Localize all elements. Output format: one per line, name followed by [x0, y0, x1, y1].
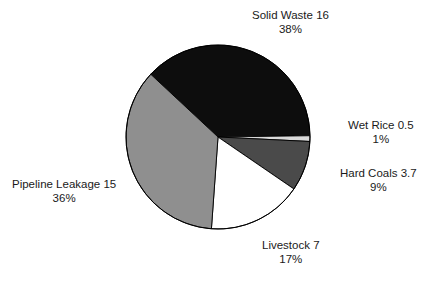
slice-label-pipeline-leakage-percent: 36%	[12, 191, 116, 205]
pie-chart-figure: Solid Waste 16 38% Wet Rice 0.5 1% Hard …	[0, 0, 423, 283]
slice-label-wet-rice-name: Wet Rice 0.5	[348, 118, 414, 132]
slice-label-livestock: Livestock 7 17%	[262, 238, 320, 266]
slice-label-hard-coals: Hard Coals 3.7 9%	[340, 166, 417, 194]
slice-label-hard-coals-percent: 9%	[340, 180, 417, 194]
slice-label-wet-rice: Wet Rice 0.5 1%	[348, 118, 414, 146]
slice-label-solid-waste-name: Solid Waste 16	[252, 8, 329, 22]
slice-label-livestock-name: Livestock 7	[262, 238, 320, 252]
slice-label-wet-rice-percent: 1%	[348, 132, 414, 146]
slice-label-solid-waste: Solid Waste 16 38%	[252, 8, 329, 36]
slice-label-solid-waste-percent: 38%	[252, 22, 329, 36]
slice-label-pipeline-leakage-name: Pipeline Leakage 15	[12, 177, 116, 191]
slice-label-pipeline-leakage: Pipeline Leakage 15 36%	[12, 177, 116, 205]
slice-label-hard-coals-name: Hard Coals 3.7	[340, 166, 417, 180]
slice-label-livestock-percent: 17%	[262, 252, 320, 266]
clipped-text-artifact	[0, 276, 423, 283]
pie-slices-group	[126, 45, 310, 229]
